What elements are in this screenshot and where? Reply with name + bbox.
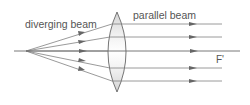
arrow-icon [189,22,197,26]
arrow-icon [190,49,198,53]
lens-diagram: diverging beam parallel beam F' [0,0,250,105]
diverging-rays [26,24,112,81]
arrow-icon [78,66,85,71]
diagram-canvas [0,0,250,105]
parallel-rays [110,24,222,81]
diverging-arrows [78,31,87,71]
parallel-beam-label: parallel beam [133,10,196,21]
arrow-icon [78,40,86,44]
parallel-arrows [189,22,198,83]
diverging-beam-label: diverging beam [25,19,97,30]
arrow-icon [78,31,85,36]
arrow-icon [78,58,86,62]
arrow-icon [189,35,197,39]
arrow-icon [189,66,197,70]
arrow-icon [79,49,87,53]
focal-point-label: F' [216,55,224,65]
arrow-icon [189,79,197,83]
